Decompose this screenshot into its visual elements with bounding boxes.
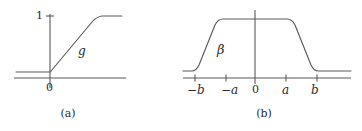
x-tick-label-neg-b: −b: [187, 84, 205, 96]
curve-label-beta: β: [217, 43, 225, 56]
panel-a: 1 0 g (a): [0, 0, 181, 131]
caption-a: (a): [38, 108, 98, 119]
panel-b: −b −a 0 a b β (b): [181, 0, 362, 131]
curve-g: [16, 16, 122, 72]
curve-label-g: g: [78, 45, 86, 57]
x-tick-label-zero: 0: [252, 84, 259, 95]
y-axis-label-one: 1: [36, 10, 43, 21]
x-axis-label-zero: 0: [46, 82, 53, 93]
x-tick-label-a: a: [282, 84, 289, 96]
figure-container: 1 0 g (a) −b −a 0 a b β (b): [0, 0, 362, 131]
x-tick-label-b: b: [311, 84, 319, 96]
caption-b: (b): [234, 108, 294, 119]
x-tick-label-neg-a: −a: [221, 84, 238, 96]
curve-beta: [183, 19, 351, 71]
